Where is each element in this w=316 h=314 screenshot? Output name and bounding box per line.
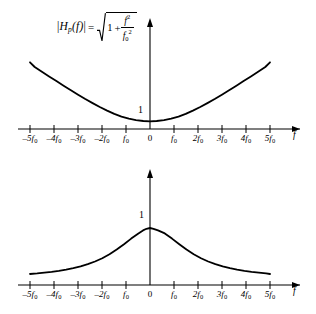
radicand-one: 1	[107, 23, 112, 34]
x-tick-label-2f0: 2f0	[193, 289, 203, 300]
x-tick-label-1f0: f0	[171, 289, 177, 300]
formula-lhs: |Hp(f)|	[57, 21, 86, 34]
x-tick-label--5f0: –5f0	[23, 133, 38, 144]
x-tick-label-4f0: 4f0	[241, 289, 251, 300]
x-tick-label-5f0: 5f0	[265, 133, 275, 144]
x-tick-label-3f0: 3f0	[217, 289, 227, 300]
y-value-label-1: 1	[139, 209, 144, 220]
x-axis-label: f	[293, 130, 296, 140]
x-tick-label-5f0: 5f0	[265, 289, 275, 300]
formula-equals: =	[88, 22, 94, 33]
x-tick-label-3f0: 3f0	[217, 133, 227, 144]
x-tick-label-2f0: 2f0	[193, 133, 203, 144]
x-tick-label--1f0: f0	[123, 289, 129, 300]
x-tick-label-4f0: 4f0	[241, 133, 251, 144]
y-value-label-1: 1	[138, 104, 143, 115]
fraction-f-over-f0: f2 f02	[121, 14, 134, 42]
y-axis-arrow	[147, 18, 153, 27]
x-tick-label--3f0: –3f0	[71, 133, 86, 144]
chart-pre-emphasis: |Hp(f)| = 1+ f2 f02 1	[0, 0, 316, 157]
chart-de-emphasis: |Hd(f)| = 1 1+ f2	[0, 157, 316, 314]
x-tick-label-0: 0	[148, 289, 153, 299]
radical-sign-icon	[97, 12, 106, 42]
fraction-numerator: f2	[122, 14, 132, 27]
x-tick-label-1f0: f0	[171, 133, 177, 144]
figure-container: |Hp(f)| = 1+ f2 f02 1	[0, 0, 316, 314]
x-tick-label--5f0: –5f0	[23, 289, 38, 300]
x-tick-label--4f0: –4f0	[47, 133, 62, 144]
x-tick-label--4f0: –4f0	[47, 289, 62, 300]
x-tick-label--1f0: f0	[123, 133, 129, 144]
x-tick-label--3f0: –3f0	[71, 289, 86, 300]
formula-pre-emphasis: |Hp(f)| = 1+ f2 f02	[57, 12, 137, 42]
x-axis-label: f	[293, 286, 296, 296]
fraction-denominator: f02	[121, 27, 134, 42]
radical-group: 1+ f2 f02	[97, 12, 137, 42]
x-tick-label--2f0: –2f0	[95, 133, 110, 144]
y-axis-arrow	[147, 169, 153, 178]
x-tick-label-0: 0	[148, 133, 153, 143]
x-tick-label--2f0: –2f0	[95, 289, 110, 300]
radicand: 1+ f2 f02	[106, 12, 137, 42]
